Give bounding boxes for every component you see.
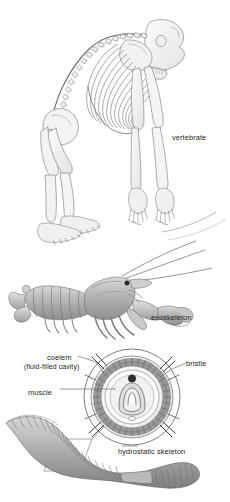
- label-coelom-subtitle: (fluid-filled cavity): [24, 362, 79, 371]
- label-bristle: bristle: [186, 359, 206, 368]
- label-muscle: muscle: [28, 388, 52, 397]
- label-vertebrate: vertebrate: [172, 133, 206, 142]
- lobster-drawing: [9, 241, 212, 339]
- label-exoskeleton: exoskeleton: [151, 313, 192, 322]
- panel-exoskeleton: [0, 238, 230, 348]
- label-hydrostatic-skeleton: hydrostatic skeleton: [118, 447, 185, 456]
- label-coelom: coelem: [47, 353, 71, 362]
- panel-vertebrate: [0, 0, 230, 250]
- skeleton-types-figure: vertebrate exoskeleton coelem (fluid-fil…: [0, 0, 230, 502]
- worm-cross-section: [84, 349, 180, 445]
